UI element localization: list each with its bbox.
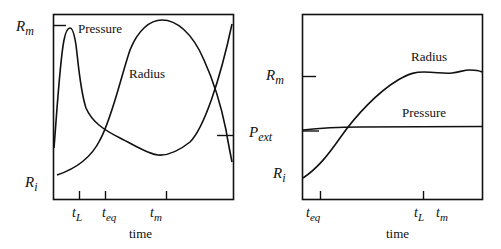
right-tL-label: tL [414,205,424,223]
right-ri-label: Ri [272,165,286,185]
right-rm-label: Rm [265,67,284,87]
right-plot-frame [303,15,483,200]
right-tm-label: tm [436,205,448,223]
left-x-axis-label: time [129,226,152,241]
right-x-axis-label: time [386,226,409,241]
right-pext-label: Pext [248,124,273,144]
left-panel: Pressure Radius Rm Ri tL teq tm time [15,15,234,242]
left-plot-frame [54,15,234,200]
right-radius-curve [303,70,482,178]
left-radius-label: Radius [129,66,165,81]
left-rm-label: Rm [15,18,34,38]
right-radius-label: Radius [411,49,447,64]
left-ri-label: Ri [24,174,38,194]
diagram-canvas: Pressure Radius Rm Ri tL teq tm time Rad… [0,0,501,249]
left-pressure-curve [54,24,232,155]
left-tL-label: tL [72,205,82,223]
right-teq-label: teq [306,205,321,223]
right-pressure-curve [303,127,482,131]
left-pressure-label: Pressure [78,21,122,36]
right-pressure-label: Pressure [402,105,446,120]
left-tm-label: tm [150,205,162,223]
left-teq-label: teq [102,205,117,223]
right-panel: Radius Pressure Rm Pext Ri teq tL tm tim… [248,15,483,242]
